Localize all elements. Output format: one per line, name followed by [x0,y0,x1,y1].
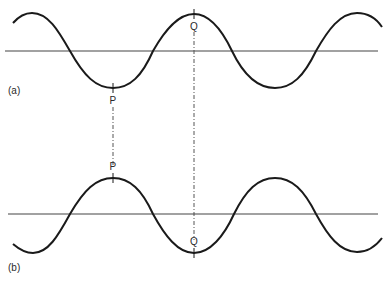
point-q-label-b: Q [190,236,198,247]
point-q-label-a: Q [190,21,198,32]
panel-b-label: (b) [8,262,20,273]
panel-a-label: (a) [8,85,20,96]
point-p-label-b: P [110,161,117,172]
panel-a: P Q (a) [5,9,382,106]
point-p-label-a: P [110,95,117,106]
wave-phase-diagram: P Q (a) P Q (b) [0,0,391,282]
panel-b: P Q (b) [8,161,382,273]
